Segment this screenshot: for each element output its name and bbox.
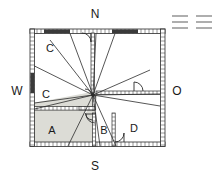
door-north	[82, 33, 91, 42]
room-label-c-upper: C	[46, 42, 54, 54]
compass-label-west: W	[11, 84, 23, 98]
sight-line-nw	[70, 34, 93, 96]
sight-line-e	[93, 95, 160, 106]
window-west	[30, 73, 34, 93]
room-label-b: B	[100, 124, 107, 136]
sight-line-nnw	[50, 40, 93, 95]
wall-south	[30, 142, 165, 147]
wall-east	[161, 29, 166, 147]
room-label-c-lower: C	[42, 88, 50, 100]
hatch-scale-marks	[172, 16, 212, 28]
compass-label-east: O	[172, 84, 181, 98]
sight-line-nne	[93, 34, 115, 96]
floor-plan-canvas: N S W O C C A B D	[0, 0, 222, 180]
room-label-d: D	[130, 122, 138, 134]
window-north-left	[44, 29, 70, 33]
compass-label-south: S	[91, 159, 99, 173]
door-room-b	[115, 133, 124, 142]
wall-central-spine	[91, 33, 95, 93]
sight-hub-marker	[91, 93, 95, 97]
door-east-interior	[134, 82, 143, 91]
compass-label-north: N	[91, 7, 100, 21]
window-north-right	[112, 29, 138, 33]
floor-plan-figure: N S W O C C A B D	[0, 0, 222, 180]
wall-b-west	[93, 113, 96, 146]
room-label-a: A	[48, 124, 56, 136]
